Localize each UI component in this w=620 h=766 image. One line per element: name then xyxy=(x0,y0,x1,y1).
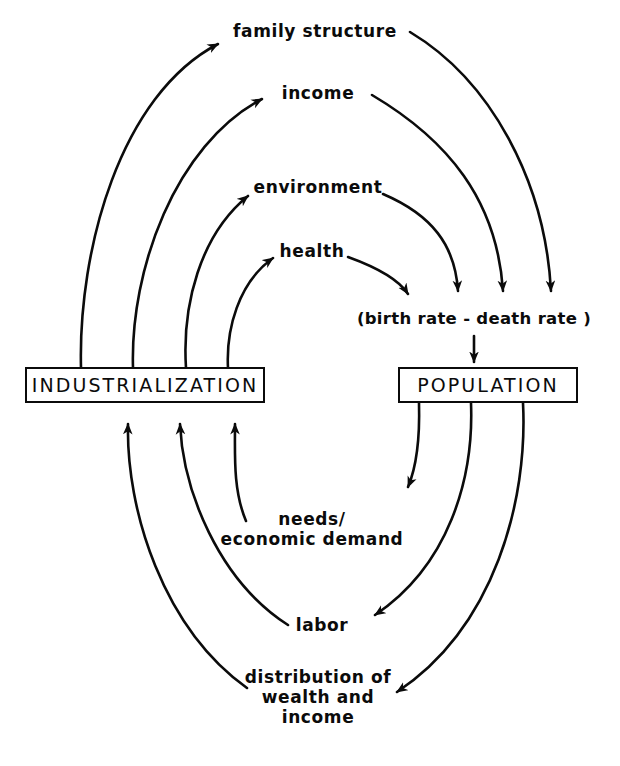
node-needs-economic-demand: needs/ economic demand xyxy=(221,509,404,549)
edge-industrialization-to-environment xyxy=(185,196,248,368)
node-industrialization[interactable]: INDUSTRIALIZATION xyxy=(25,367,265,403)
node-health: health xyxy=(280,241,345,261)
edge-family-structure-to-birth-death-rate xyxy=(410,32,551,291)
node-environment: environment xyxy=(254,177,383,197)
edge-health-to-birth-death-rate xyxy=(348,257,408,294)
node-population[interactable]: POPULATION xyxy=(398,367,578,403)
edge-distribution-to-industrialization xyxy=(128,424,247,688)
node-labor: labor xyxy=(296,615,349,635)
edge-population-to-distribution xyxy=(397,403,523,692)
node-birth-death-rate: (birth rate - death rate ) xyxy=(357,309,591,328)
edge-industrialization-to-health xyxy=(228,258,273,368)
node-population-label: POPULATION xyxy=(417,374,559,396)
edge-industrialization-to-family-structure xyxy=(81,44,218,368)
node-distribution-of-wealth-and-income: distribution of wealth and income xyxy=(245,667,391,727)
node-family-structure: family structure xyxy=(233,21,397,41)
edge-population-to-needs xyxy=(408,403,419,487)
edge-income-to-birth-death-rate xyxy=(372,95,503,291)
causal-loop-diagram: INDUSTRIALIZATION POPULATION family stru… xyxy=(0,0,620,766)
edge-environment-to-birth-death-rate xyxy=(383,194,458,291)
node-income: income xyxy=(282,83,355,103)
edge-needs-to-industrialization xyxy=(235,424,246,521)
edge-industrialization-to-income xyxy=(133,99,262,368)
node-industrialization-label: INDUSTRIALIZATION xyxy=(32,374,259,396)
